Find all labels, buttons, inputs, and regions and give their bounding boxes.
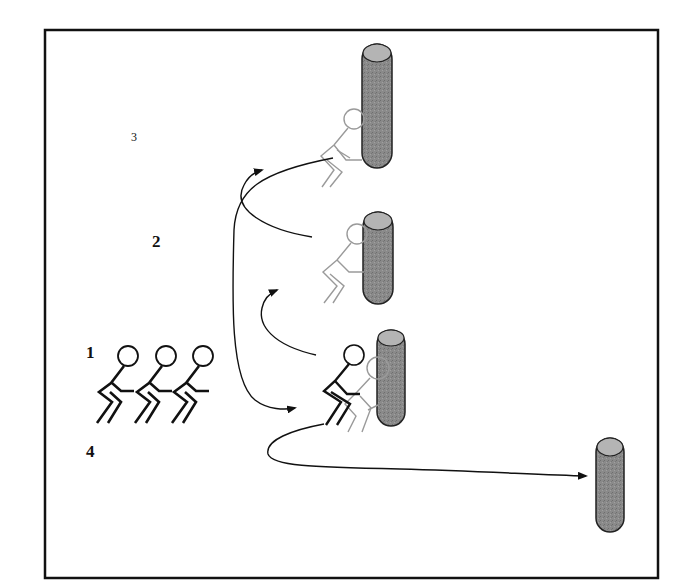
tackle-bag-top [362,44,392,168]
label-1: 1 [86,343,95,363]
arrow-to-far-right-bag [268,424,586,476]
player-ghost-middle [323,224,367,303]
tackle-bag-far-right [596,438,624,532]
player-waiting-2 [135,346,176,423]
player-waiting-3 [172,346,213,423]
arrow-middle-to-top [241,170,312,237]
arrow-bottom-to-middle [261,290,316,355]
label-3: 3 [131,130,137,145]
diagram-frame [45,30,658,578]
player-waiting-1 [97,346,138,423]
label-2: 2 [152,232,161,252]
player-active-bottom [324,345,364,425]
label-4: 4 [86,442,95,462]
tackle-bag-middle [363,212,393,304]
player-ghost-top [321,109,364,187]
arrow-loop-to-start [233,158,333,409]
drill-diagram [0,0,692,588]
